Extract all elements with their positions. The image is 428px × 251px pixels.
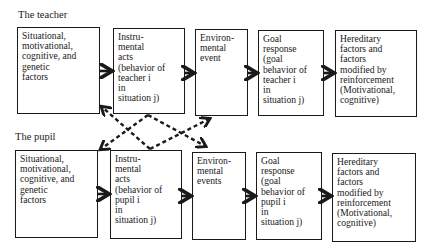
- teacher-environmental-event-box: Environ- mental event: [195, 29, 248, 116]
- row-label-pupil: The pupil: [15, 131, 56, 143]
- teacher-instrumental-acts-box: Instru- mental acts (behavior of teacher…: [113, 28, 185, 114]
- teacher-hereditary-factors-box: Hereditary factors and factors modified …: [335, 30, 417, 117]
- teacher-goal-response-box: Goal response (goal behavior of teacher …: [258, 30, 324, 116]
- dashed-arrow-p-instrumental-to-t-environmental: [150, 119, 209, 149]
- dashed-arrow-t-instrumental-to-p-situational: [101, 115, 148, 149]
- dashed-arrow-t-instrumental-to-p-environmental: [148, 115, 205, 146]
- pupil-goal-response-box: Goal response (goal behavior of pupil i …: [256, 152, 322, 240]
- pupil-hereditary-factors-box: Hereditary factors and factors modified …: [332, 153, 416, 242]
- pupil-environmental-events-box: Environ- mental events: [192, 152, 246, 240]
- pupil-situational-box: Situational, motivational, cognitive, an…: [15, 150, 98, 238]
- teacher-situational-box: Situational, motivational, cognitive, an…: [17, 27, 100, 114]
- pupil-instrumental-acts-box: Instru- mental acts (behavior of pupil i…: [110, 150, 182, 239]
- row-label-teacher: The teacher: [18, 9, 67, 21]
